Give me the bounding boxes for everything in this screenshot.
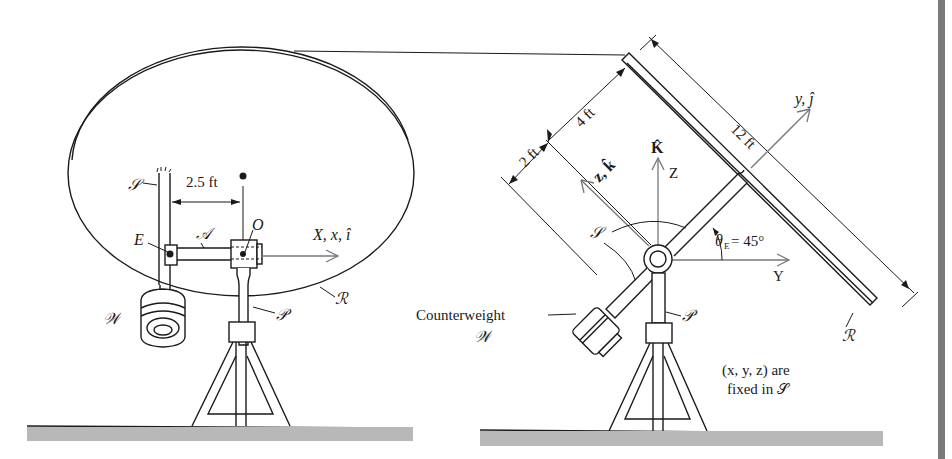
label-12ft: 12 ft xyxy=(728,121,760,153)
label-weight-w: 𝒲 xyxy=(474,327,495,346)
label-arm-a: 𝒜 xyxy=(196,224,216,243)
label-2ft: 2 ft xyxy=(516,144,542,170)
label-z-axis: z, k̂ xyxy=(588,155,618,185)
label-theta-sub: E xyxy=(724,241,730,251)
label-support-s: 𝒮 xyxy=(590,223,607,242)
note-line-1: (x, y, z) are xyxy=(722,362,790,379)
note-line-2: fixed in 𝒮 xyxy=(727,381,790,397)
reflector-rim xyxy=(72,47,408,160)
label-Y-axis: Y xyxy=(773,268,784,284)
label-theta-value: = 45° xyxy=(731,233,764,249)
label-origin-o: O xyxy=(252,216,264,233)
right-view: 2 ft 4 ft 12 ft z, k̂ y, ĵ K̂ Z Y θ E = … xyxy=(416,35,918,446)
label-pedestal-p: 𝒫 xyxy=(276,305,292,324)
projection-line xyxy=(294,51,625,55)
label-weight-w: 𝒲 xyxy=(103,309,124,328)
label-K-axis: K̂ xyxy=(651,139,664,156)
label-reflector-r: ℛ xyxy=(335,289,349,308)
label-support-s: 𝒮 xyxy=(128,175,145,194)
label-4ft: 4 ft xyxy=(572,104,598,130)
antenna-diagram: 𝒮 2.5 ft E 𝒜 O X, x, î ℛ 𝒲 𝒫 xyxy=(0,0,952,459)
label-x-axis: X, x, î xyxy=(312,226,352,243)
label-pedestal-p: 𝒫 xyxy=(682,306,698,325)
label-theta: θ xyxy=(715,232,723,249)
label-reflector-r: ℛ xyxy=(842,326,856,345)
label-2-5ft: 2.5 ft xyxy=(186,174,218,190)
label-Z-axis: Z xyxy=(669,165,678,181)
label-counterweight: Counterweight xyxy=(416,307,506,323)
left-view: 𝒮 2.5 ft E 𝒜 O X, x, î ℛ 𝒲 𝒫 xyxy=(27,47,625,441)
label-y-axis: y, ĵ xyxy=(793,90,815,108)
label-point-e: E xyxy=(133,231,144,248)
